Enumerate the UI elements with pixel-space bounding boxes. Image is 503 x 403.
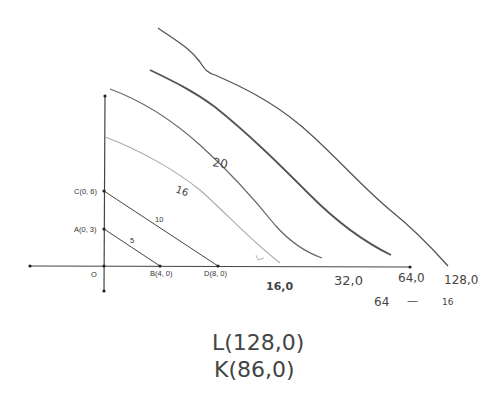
note-L: L(128,0) <box>212 330 304 355</box>
label-line-5: 5 <box>130 236 134 245</box>
label-curve-20: 20 <box>211 155 228 171</box>
annotation-64-0: 64,0 <box>398 271 425 285</box>
label-curve-16: 16 <box>174 184 190 199</box>
annotation-32-0: 32,0 <box>334 273 363 288</box>
origin-point <box>102 264 105 267</box>
isoquant-10 <box>104 191 218 266</box>
label-origin: O <box>91 270 97 279</box>
label-point-B: B(4, 0) <box>150 269 173 278</box>
annotation-16-0: 16,0 <box>266 280 293 293</box>
annotation-below-64: 64 <box>374 295 389 309</box>
annotation-dash: — <box>407 294 418 307</box>
isoquant-32-curve <box>150 70 391 255</box>
point-D <box>216 264 219 267</box>
point-B <box>158 264 161 267</box>
tick-mark <box>256 255 264 260</box>
label-point-D: D(8, 0) <box>204 269 227 278</box>
label-point-A: A(0, 3) <box>74 225 97 234</box>
point-C <box>102 189 105 192</box>
x-axis <box>30 266 410 267</box>
point-A <box>102 227 105 230</box>
isoquant-5 <box>104 229 160 266</box>
x-axis-right-end <box>408 265 411 268</box>
y-axis-bottom-end <box>102 289 105 292</box>
annotation-below-128: 16 <box>442 297 454 307</box>
isoquant-20-curve <box>110 89 322 258</box>
label-point-C: C(0, 6) <box>74 187 97 196</box>
y-axis-top-end <box>103 94 106 97</box>
x-axis-left-end <box>28 264 31 267</box>
y-axis <box>104 96 105 291</box>
annotation-128-0: 128,0 <box>444 273 478 287</box>
note-K: K(86,0) <box>214 357 295 382</box>
label-line-10: 10 <box>155 215 163 224</box>
diagram-canvas: O A(0, 3) C(0, 6) B(4, 0) D(8, 0) 5 10 1… <box>0 0 503 403</box>
